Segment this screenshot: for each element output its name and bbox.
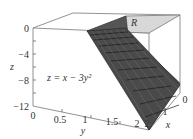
- y-tick-0-5: 0.5: [54, 114, 67, 125]
- z-tick-neg4: −4: [18, 49, 29, 60]
- equation-label: z = x − 3y²: [46, 72, 92, 83]
- region-r-label: R: [130, 17, 137, 28]
- z-axis: [33, 41, 36, 93]
- x-tick-2: 2: [145, 118, 150, 129]
- z-tick-neg8: −8: [18, 75, 29, 86]
- z-tick-0: 0: [24, 23, 29, 34]
- y-tick-2: 2: [135, 118, 140, 129]
- surface-plot: 0 −4 −8 −12 z 0 0.5 1 1.5 2 y 2 1 0 x z …: [0, 0, 193, 139]
- y-tick-1: 1: [83, 114, 88, 125]
- x-tick-1: 1: [163, 106, 168, 117]
- y-axis-label: y: [80, 125, 86, 136]
- y-tick-0: 0: [31, 110, 36, 121]
- z-tick-neg12: −12: [13, 101, 29, 112]
- y-tick-1-5: 1.5: [106, 116, 119, 127]
- x-tick-0: 0: [183, 94, 188, 105]
- x-axis-label: x: [165, 119, 171, 130]
- z-axis-label: z: [9, 61, 14, 72]
